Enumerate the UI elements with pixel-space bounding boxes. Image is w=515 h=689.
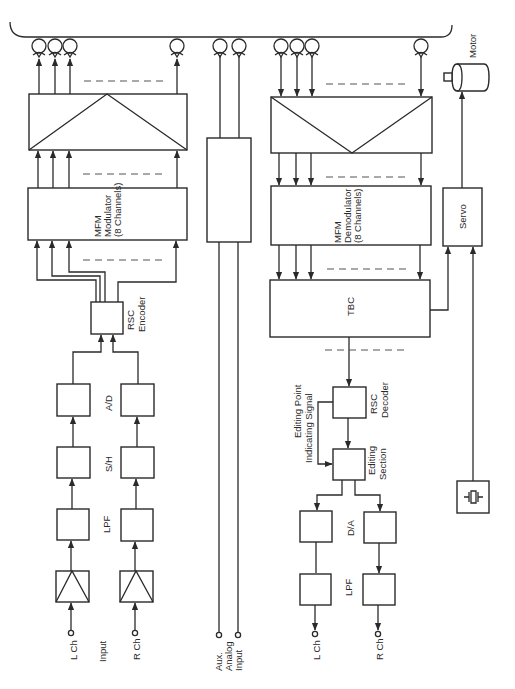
rsc-decoder-label-2: Decoder	[379, 382, 390, 418]
editing-point-label-2: Indicating Signal	[303, 393, 314, 463]
l-ch-input-terminal	[68, 630, 73, 635]
head-icon	[32, 39, 46, 57]
da-block-right	[364, 512, 396, 543]
lpf-in-label: LPF	[101, 515, 112, 533]
sh-block-left	[57, 447, 90, 478]
tape-line	[10, 22, 452, 37]
lpf-out-label: LPF	[343, 578, 354, 596]
r-ch-input-terminal	[132, 630, 137, 635]
aux-input-terminal-2	[235, 632, 240, 637]
lpf-out-block-right	[363, 574, 395, 605]
head-icon	[213, 39, 227, 57]
input-amplifier-right	[120, 571, 153, 602]
ad-block-left	[57, 384, 90, 416]
input-label: Input	[97, 641, 108, 662]
record-heads-group	[32, 39, 184, 57]
playback-amplifier-block	[271, 97, 432, 153]
editing-section-block	[333, 449, 365, 480]
mfm-demodulator-label-3: (8 Channels)	[352, 189, 363, 243]
l-ch-input-label: L Ch	[68, 640, 79, 660]
r-ch-output-terminal	[375, 631, 380, 636]
rsc-encoder-label-1: RSC	[125, 310, 136, 330]
motor-icon	[444, 64, 489, 91]
da-block-left	[300, 511, 332, 542]
aux-amplifier-block	[207, 138, 251, 242]
tbc-label: TBC	[345, 297, 356, 316]
lpf-out-block-left	[300, 574, 331, 605]
l-ch-output-terminal	[312, 631, 317, 636]
aux-input-terminal-1	[216, 632, 221, 637]
lpf-in-block-left	[57, 509, 89, 540]
playback-heads-group	[274, 39, 428, 57]
ad-block-right	[121, 384, 154, 416]
sh-block-right	[121, 447, 154, 478]
record-amplifier-block	[29, 94, 187, 150]
head-icon	[274, 39, 288, 57]
editing-section-label-1: Editing	[366, 446, 377, 475]
head-icon	[48, 39, 62, 57]
l-ch-output-label: L Ch	[311, 640, 322, 660]
sh-label: S/H	[103, 456, 114, 472]
rsc-encoder-block	[91, 302, 123, 334]
ad-label: A/D	[103, 395, 114, 411]
digital-audio-recorder-block-diagram: MFM Modulator (8 Channels) RSC Encoder A…	[0, 0, 515, 689]
aux-label-3: Input	[233, 650, 244, 671]
r-ch-input-label: R Ch	[131, 638, 142, 660]
servo-label: Servo	[457, 204, 468, 229]
aux-heads-group	[213, 39, 246, 57]
r-ch-output-label: R Ch	[374, 638, 385, 660]
rsc-decoder-label-1: RSC	[368, 394, 379, 414]
rsc-encoder-label-2: Encoder	[136, 297, 147, 332]
crystal-oscillator-block	[457, 481, 489, 513]
head-icon	[63, 39, 77, 57]
head-icon	[305, 39, 319, 57]
motor-label: Motor	[467, 34, 478, 58]
editing-point-label-1: Editing Point	[292, 384, 303, 438]
head-icon	[290, 39, 304, 57]
input-amplifier-left	[56, 571, 89, 602]
lpf-in-block-right	[121, 509, 153, 541]
mfm-modulator-label-3: (8 Channels)	[112, 183, 123, 237]
da-label: D/A	[345, 520, 356, 537]
head-icon	[170, 39, 184, 57]
editing-section-label-2: Section	[377, 448, 388, 480]
head-icon	[414, 39, 428, 57]
head-icon	[232, 39, 246, 57]
rsc-decoder-block	[333, 387, 366, 418]
